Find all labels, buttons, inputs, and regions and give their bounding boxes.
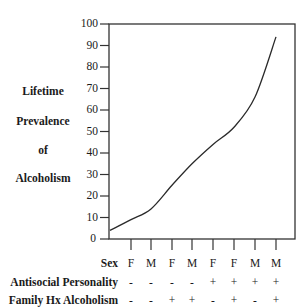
antisocial-cell: + (247, 276, 263, 289)
sex-cell: M (143, 257, 159, 270)
antisocial-cell: - (123, 276, 139, 289)
y-tick-label: 80 (70, 60, 98, 72)
prevalence-curve (110, 37, 276, 231)
family-hx-cell: + (226, 294, 242, 307)
antisocial-cell: - (164, 276, 180, 289)
family-hx-cell: - (123, 294, 139, 307)
family-hx-cell: - (143, 294, 159, 307)
antisocial-cell: + (226, 276, 242, 289)
y-tick-label: 20 (70, 189, 98, 201)
sex-cell: M (247, 257, 263, 270)
antisocial-cell: + (205, 276, 221, 289)
x-axis-ticks (131, 239, 276, 250)
row-label-family-hx-alcoholism: Family Hx Alcoholism (9, 294, 118, 307)
ylabel-word-lifetime: Lifetime (0, 85, 86, 98)
y-axis-ticks (100, 24, 109, 239)
sex-cell: M (184, 257, 200, 270)
plot-frame (109, 24, 295, 239)
row-label-sex: Sex (101, 257, 118, 270)
sex-cell: F (205, 257, 221, 270)
sex-cell: F (164, 257, 180, 270)
sex-cell: M (268, 257, 284, 270)
y-tick-label: 90 (70, 39, 98, 51)
antisocial-cell: + (268, 276, 284, 289)
family-hx-cell: - (247, 294, 263, 307)
sex-cell: F (226, 257, 242, 270)
ylabel-word-of: of (0, 144, 86, 157)
family-hx-cell: - (205, 294, 221, 307)
family-hx-cell: + (164, 294, 180, 307)
row-label-antisocial-personality: Antisocial Personality (10, 276, 118, 289)
y-tick-label: 100 (70, 17, 98, 29)
y-tick-label: 0 (68, 232, 96, 244)
ylabel-word-alcoholism: Alcoholism (0, 172, 86, 185)
y-tick-label: 60 (70, 103, 98, 115)
sex-cell: F (123, 257, 139, 270)
ylabel-word-prevalence: Prevalence (0, 115, 86, 128)
family-hx-cell: + (268, 294, 284, 307)
antisocial-cell: - (143, 276, 159, 289)
family-hx-cell: + (184, 294, 200, 307)
y-tick-label: 10 (70, 211, 98, 223)
antisocial-cell: - (184, 276, 200, 289)
